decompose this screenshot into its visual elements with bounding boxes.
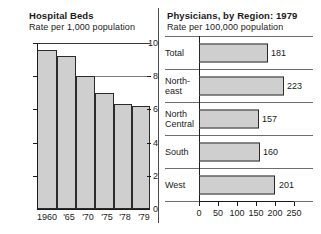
row-bar-west [199,175,275,194]
row-bar-total [199,43,268,62]
row-value-northeast: 223 [287,81,302,91]
value-axis-line [199,201,294,202]
xtick-mark-200 [275,202,276,206]
ytick-label-10: 10 [127,38,158,48]
bar-1965 [57,56,76,209]
rowline-2 [165,102,313,103]
bar-1979 [132,106,150,209]
ytick-mark-8 [33,76,37,77]
ytick-mark-6 [33,109,37,110]
xtick-label-150: 150 [248,208,263,218]
xtick-label-100: 100 [229,208,244,218]
row-bar-north-central [199,109,259,128]
bar-1975 [95,93,114,209]
xtick-mark-250 [294,202,295,206]
hospital-beds-chart: Hospital Beds Rate per 1,000 population … [0,0,158,234]
bar-1978 [114,104,132,209]
ytick-mark-2 [33,176,37,177]
xtick-mark-100 [237,202,238,206]
xtick-mark-50 [218,202,219,206]
y-axis-line [37,43,38,210]
row-label-south: South [165,147,189,157]
physicians-subtitle: Rate per 100,000 population [167,22,283,32]
xtick-label-250: 250 [286,208,301,218]
xtick-label-1960: 1960 [33,212,61,222]
xtick-label-79: '79 [134,212,154,222]
ytick-label-8: 8 [127,71,158,81]
ytick-label-4: 4 [127,138,158,148]
statistical-figure: Hospital Beds Rate per 1,000 population … [0,0,321,234]
row-value-total: 181 [271,48,286,58]
rowline-1 [165,69,313,70]
ytick-label-2: 2 [127,171,158,181]
rowline-3 [165,135,313,136]
row-label-total: Total [165,48,184,58]
rowline-4 [165,168,313,169]
xtick-label-200: 200 [267,208,282,218]
row-label-west: West [165,180,185,190]
row-value-south: 160 [263,147,278,157]
bar-1960 [37,50,57,209]
physicians-title: Physicians, by Region: 1979 [167,10,297,21]
hospital-beds-subtitle: Rate per 1,000 population [29,22,135,32]
xtick-label-0: 0 [196,208,201,218]
xtick-label-75: '75 [97,212,117,222]
ytick-mark-10 [33,43,37,44]
ytick-mark-4 [33,143,37,144]
row-bar-northeast [199,76,284,95]
xtick-label-70: '70 [78,212,98,222]
xtick-mark-0 [199,202,200,206]
hospital-beds-title: Hospital Beds [29,10,94,21]
xtick-label-65: '65 [59,212,79,222]
row-label-northeast: North- east [165,76,190,96]
row-bar-south [199,142,260,161]
bar-1970 [76,76,95,209]
rowline-top [165,36,313,37]
xtick-label-50: 50 [213,208,223,218]
row-value-north-central: 157 [262,114,277,124]
xtick-label-78: '78 [115,212,135,222]
xtick-mark-150 [256,202,257,206]
physicians-by-region-chart: Physicians, by Region: 1979 Rate per 100… [158,0,321,234]
ytick-label-6: 6 [127,104,158,114]
hospital-beds-plot-area [37,43,150,209]
row-value-west: 201 [279,180,294,190]
row-label-north-central: North Central [165,109,194,129]
